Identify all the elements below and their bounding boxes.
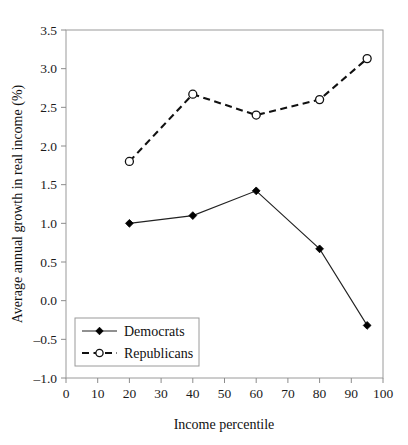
x-tick-label: 10 [91, 386, 105, 401]
data-point-marker [189, 90, 197, 98]
y-tick-label: 1.0 [40, 216, 57, 231]
y-tick-label: 2.5 [40, 100, 57, 115]
line-chart-figure: –1.0–0.50.00.51.01.52.02.53.03.5 0102030… [0, 0, 408, 445]
chart-legend: Democrats Republicans [75, 318, 199, 366]
x-axis-title: Income percentile [174, 417, 275, 432]
legend-label-democrats: Democrats [124, 324, 185, 339]
x-tick-label: 90 [345, 386, 359, 401]
x-tick-label: 70 [281, 386, 295, 401]
y-tick-label: –1.0 [32, 371, 57, 386]
x-tick-label: 40 [186, 386, 200, 401]
x-tick-label: 100 [373, 386, 394, 401]
y-axis-title: Average annual growth in real income (%) [10, 84, 26, 323]
data-point-marker [252, 111, 260, 119]
y-tick-label: 3.0 [40, 61, 57, 76]
y-tick-label: 2.0 [40, 139, 57, 154]
y-tick-label: 3.5 [40, 23, 57, 38]
legend-marker-republicans [96, 349, 103, 356]
data-point-marker [125, 157, 133, 165]
x-tick-label: 20 [123, 386, 137, 401]
y-tick-label: 0.5 [40, 255, 57, 270]
y-tick-label: 0.0 [40, 293, 57, 308]
chart-container: –1.0–0.50.00.51.01.52.02.53.03.5 0102030… [0, 0, 408, 445]
data-point-marker [363, 55, 371, 63]
legend-label-republicans: Republicans [124, 346, 193, 361]
y-tick-label: 1.5 [40, 177, 57, 192]
x-tick-label: 60 [249, 386, 263, 401]
x-tick-label: 80 [313, 386, 327, 401]
x-tick-label: 50 [218, 386, 232, 401]
x-tick-label: 30 [154, 386, 168, 401]
y-tick-label: –0.5 [32, 332, 57, 347]
data-point-marker [316, 96, 324, 104]
x-tick-label: 0 [63, 386, 70, 401]
